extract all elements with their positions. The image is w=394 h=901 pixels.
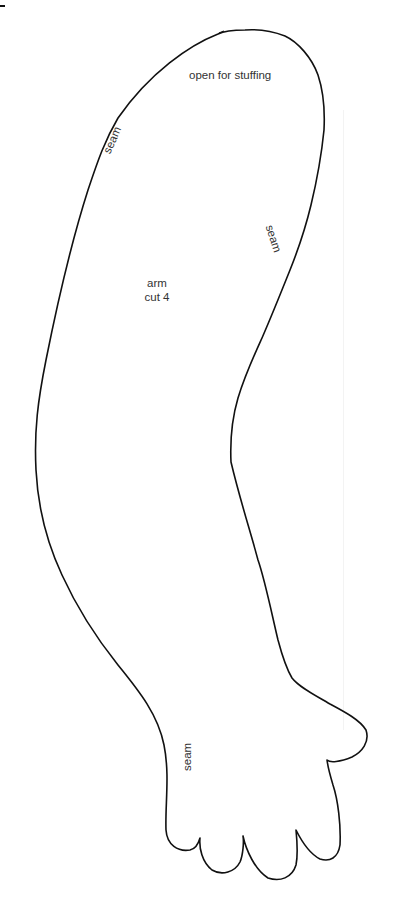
cut-instruction-label: cut 4 — [141, 290, 173, 304]
opening-label: open for stuffing — [189, 68, 271, 82]
arm-outline-path — [35, 30, 367, 880]
seam-label-wrist: seam — [180, 743, 194, 771]
arm-outline-icon — [0, 0, 394, 901]
piece-name-label: arm — [141, 276, 173, 290]
pattern-sheet: open for stuffing arm cut 4 seam seam se… — [0, 0, 394, 901]
piece-info: arm cut 4 — [141, 276, 173, 304]
